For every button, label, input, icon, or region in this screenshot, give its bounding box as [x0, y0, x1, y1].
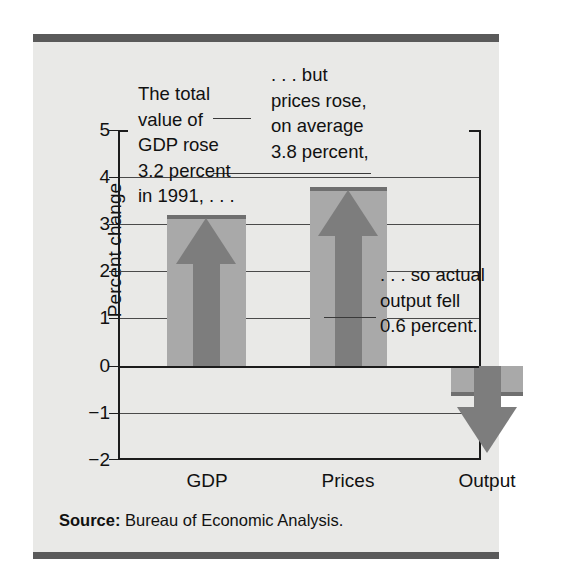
y-tick-label: −1 [88, 402, 110, 424]
arrow-head-up-prices [318, 190, 378, 236]
source-value: Bureau of Economic Analysis. [120, 511, 343, 529]
chart-panel: Percent change 5 4 3 2 1 0 −1 −2 [33, 34, 499, 559]
x-tick-label-output: Output [458, 470, 515, 492]
leader-line-output [324, 317, 376, 318]
y-tick [109, 177, 118, 178]
source-note: Source: Bureau of Economic Analysis. [59, 511, 343, 530]
y-tick [109, 130, 118, 131]
y-tick-label: −2 [88, 449, 110, 471]
gridline [120, 413, 479, 414]
y-axis-tick-labels: 5 4 3 2 1 0 −1 −2 [55, 130, 110, 460]
y-tick [109, 459, 118, 460]
y-tick [109, 366, 118, 367]
arrow-shaft-gdp [193, 260, 220, 366]
annotation-prices: . . . but prices rose, on average 3.8 pe… [271, 62, 369, 164]
arrow-shaft-prices [335, 232, 362, 366]
leader-line-gdp [213, 173, 371, 174]
bottom-rule [33, 552, 499, 559]
top-spine-left [118, 130, 128, 132]
annotation-output: . . . so actual output fell 0.6 percent. [380, 262, 485, 339]
y-tick [109, 413, 118, 414]
zero-line [120, 366, 479, 368]
y-tick [109, 224, 118, 225]
y-tick [109, 271, 118, 272]
top-spine-right [469, 130, 481, 132]
x-tick-label-gdp: GDP [186, 470, 227, 492]
figure-page: Percent change 5 4 3 2 1 0 −1 −2 [0, 0, 561, 580]
top-rule [33, 34, 499, 42]
x-axis-line [118, 458, 481, 460]
annotation-gdp: The total value of GDP rose 3.2 percent … [138, 81, 235, 209]
arrow-head-up-gdp [176, 218, 236, 264]
arrow-head-down-output [457, 407, 517, 453]
arrow-shaft-output [474, 366, 501, 412]
y-axis-line [118, 130, 120, 460]
x-tick-label-prices: Prices [322, 470, 375, 492]
y-tick [109, 318, 118, 319]
source-label: Source: [59, 511, 120, 529]
